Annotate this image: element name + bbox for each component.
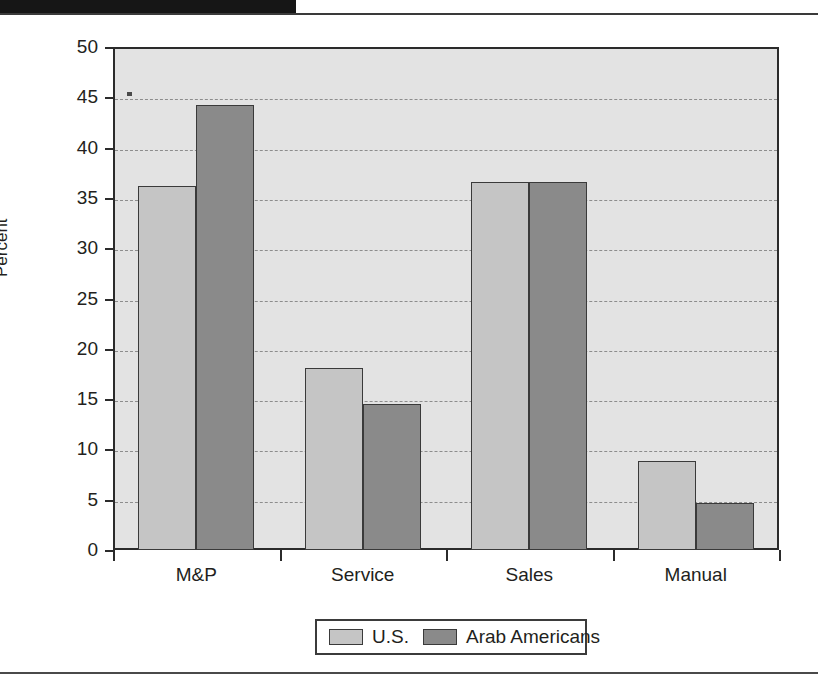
x-axis-category-label: Manual xyxy=(613,564,780,586)
y-axis-tick-label: 25 xyxy=(40,288,98,310)
y-axis-tick-label: 40 xyxy=(40,137,98,159)
x-axis-tick xyxy=(280,550,282,561)
y-axis-tick-label: 20 xyxy=(40,338,98,360)
x-axis-tick xyxy=(113,550,115,561)
bar-m-p-arab-americans xyxy=(196,105,254,550)
bar-chart-figure: Percent 05101520253035404550 M&PServiceS… xyxy=(0,15,818,670)
y-axis-tick-label: 5 xyxy=(40,489,98,511)
legend-swatch-us xyxy=(329,629,363,645)
legend-label-us: U.S. xyxy=(372,626,409,648)
page-root: Percent 05101520253035404550 M&PServiceS… xyxy=(0,0,818,690)
x-axis-category-label: M&P xyxy=(113,564,280,586)
bar-sales-u-s- xyxy=(471,182,529,550)
x-axis-tick xyxy=(613,550,615,561)
bar-sales-arab-americans xyxy=(529,182,587,550)
chart-legend: U.S. Arab Americans xyxy=(315,619,587,655)
x-axis-category-label: Service xyxy=(280,564,447,586)
legend-item-us: U.S. xyxy=(329,626,409,648)
y-axis-title: Percent xyxy=(0,218,12,277)
black-header-bar xyxy=(0,0,296,13)
y-axis-tick-label: 15 xyxy=(40,388,98,410)
x-axis-tick xyxy=(446,550,448,561)
legend-label-arab-americans: Arab Americans xyxy=(466,626,600,648)
y-axis-tick-label: 10 xyxy=(40,438,98,460)
bar-series-container xyxy=(113,47,779,550)
legend-item-arab-americans: Arab Americans xyxy=(423,626,600,648)
y-axis-tick-label: 50 xyxy=(40,36,98,58)
bar-manual-arab-americans xyxy=(696,503,754,550)
bar-m-p-u-s- xyxy=(138,186,196,550)
bar-service-u-s- xyxy=(305,368,363,550)
y-axis-tick-label: 0 xyxy=(40,539,98,561)
bar-service-arab-americans xyxy=(363,404,421,550)
y-axis-tick-label: 30 xyxy=(40,237,98,259)
legend-swatch-arab-americans xyxy=(423,629,457,645)
bar-manual-u-s- xyxy=(638,461,696,550)
x-axis-tick xyxy=(779,550,781,561)
y-axis-tick-label: 45 xyxy=(40,86,98,108)
bottom-horizontal-rule xyxy=(0,672,818,674)
x-axis-category-label: Sales xyxy=(446,564,613,586)
y-axis-tick-label: 35 xyxy=(40,187,98,209)
